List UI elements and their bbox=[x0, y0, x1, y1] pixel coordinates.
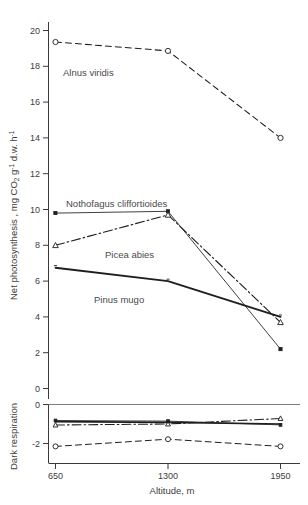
yticklabel-2: 2 bbox=[35, 348, 40, 358]
datapoint-nothofagus-resp-1950 bbox=[279, 424, 282, 427]
chart-svg: 20 18 16 14 12 10 8 6 4 2 0 Net photosyn… bbox=[0, 0, 308, 505]
yticklabel-4: 4 bbox=[35, 312, 40, 322]
yticklabel-12: 12 bbox=[30, 169, 40, 179]
series-label-nothofagus: Nothofagus cliffortioides bbox=[66, 198, 167, 209]
datapoint-alnus-resp-650 bbox=[53, 444, 58, 449]
yticklabel-16: 16 bbox=[30, 97, 40, 107]
xticklabel-650: 650 bbox=[48, 471, 63, 481]
series-label-alnus-viridis: Alnus viridis bbox=[63, 67, 114, 78]
datapoint-alnus-resp-1950 bbox=[278, 444, 283, 449]
series-label-picea-abies: Picea abies bbox=[105, 249, 154, 260]
datapoint-nothofagus-1950 bbox=[279, 348, 282, 351]
yticklabel-resp-neg2: -2 bbox=[32, 439, 40, 449]
y-axis-title-top: Net photosynthesis , mg CO2 g-1 d.w. h-1 bbox=[8, 130, 20, 300]
yticklabel-10: 10 bbox=[30, 205, 40, 215]
datapoint-nothofagus-resp-650 bbox=[54, 419, 57, 422]
datapoint-alnus-1950 bbox=[278, 135, 283, 140]
datapoint-alnus-650 bbox=[53, 39, 58, 44]
xticklabel-1300: 1300 bbox=[158, 471, 178, 481]
yticklabel-20: 20 bbox=[30, 26, 40, 36]
yticklabel-18: 18 bbox=[30, 61, 40, 71]
yticklabel-8: 8 bbox=[35, 240, 40, 250]
x-axis-title: Altitude, m bbox=[150, 485, 195, 496]
datapoint-nothofagus-650 bbox=[54, 211, 57, 214]
chart-figure: 20 18 16 14 12 10 8 6 4 2 0 Net photosyn… bbox=[0, 0, 308, 505]
yticklabel-14: 14 bbox=[30, 133, 40, 143]
y-axis-title-bottom: Dark respiration bbox=[8, 403, 19, 470]
datapoint-alnus-1300 bbox=[165, 48, 170, 53]
series-label-pinus-mugo: Pinus mugo bbox=[94, 294, 144, 305]
datapoint-alnus-resp-1300 bbox=[166, 437, 171, 442]
datapoint-nothofagus-resp-1300 bbox=[167, 420, 170, 423]
yticklabel-resp-0: 0 bbox=[35, 400, 40, 410]
yticklabel-6: 6 bbox=[35, 276, 40, 286]
yticklabel-0: 0 bbox=[35, 384, 40, 394]
xticklabel-1950: 1950 bbox=[270, 471, 290, 481]
